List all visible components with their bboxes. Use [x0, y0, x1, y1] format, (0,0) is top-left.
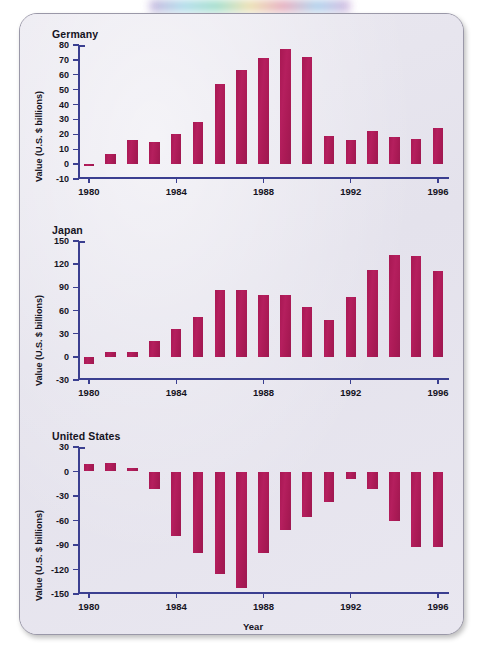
bar — [215, 472, 225, 575]
y-axis-tick-label: -120 — [29, 565, 69, 575]
y-axis-tick — [73, 149, 79, 150]
bar — [280, 472, 290, 531]
bar — [389, 137, 399, 164]
bar — [346, 140, 356, 164]
x-axis-tick — [437, 378, 438, 384]
x-axis-tick-label: 1988 — [253, 601, 274, 612]
x-axis-label: Year — [243, 621, 263, 632]
plot-area-united-states — [78, 447, 449, 594]
bar — [127, 468, 137, 471]
bar — [105, 352, 115, 357]
bar — [105, 154, 115, 164]
y-axis-tick — [73, 356, 79, 357]
x-axis-tick — [437, 592, 438, 598]
bar — [389, 255, 399, 357]
x-axis-tick-label: 1992 — [340, 387, 361, 398]
y-axis-tick-label: -10 — [29, 174, 69, 184]
bar — [324, 472, 334, 502]
bar — [433, 128, 443, 164]
y-axis-tick-label: -60 — [29, 516, 69, 526]
bar — [280, 295, 290, 357]
bar — [433, 472, 443, 547]
bar — [171, 134, 181, 164]
x-axis-tick — [437, 177, 438, 183]
y-axis-tick — [73, 287, 79, 288]
x-axis-tick — [176, 177, 177, 183]
bar — [302, 472, 312, 518]
bar — [193, 317, 203, 356]
y-axis-tick — [73, 104, 79, 105]
bar — [433, 271, 443, 357]
bar — [127, 352, 137, 357]
bar — [171, 472, 181, 537]
figure-page: Germany Value (U.S. $ billions) 19801984… — [0, 0, 492, 649]
panel-title-germany: Germany — [52, 28, 98, 40]
bar — [236, 290, 246, 356]
x-axis-tick-label: 1988 — [253, 186, 274, 197]
bar — [236, 70, 246, 164]
bar — [84, 357, 94, 364]
y-axis-tick — [73, 240, 79, 241]
x-axis-tick — [263, 177, 264, 183]
x-axis-tick — [263, 378, 264, 384]
bar — [149, 142, 159, 164]
chart-panel-japan: Japan Value (U.S. $ billions) 1980198419… — [20, 210, 463, 410]
x-axis-tick-label: 1996 — [428, 601, 449, 612]
y-axis-tick — [73, 119, 79, 120]
y-axis-tick — [73, 178, 79, 179]
plot-area-japan — [78, 241, 449, 380]
bar — [84, 164, 94, 166]
y-axis-tick-label: 120 — [29, 259, 69, 269]
x-axis-tick-label: 1980 — [78, 186, 99, 197]
y-axis-tick — [73, 569, 79, 570]
y-axis-tick-label: 0 — [29, 467, 69, 477]
y-axis-tick-label: 70 — [29, 55, 69, 65]
y-axis-tick — [73, 495, 79, 496]
bar — [302, 57, 312, 164]
bar — [171, 329, 181, 357]
plot-area-germany — [78, 45, 449, 179]
y-axis-tick-label: 0 — [29, 352, 69, 362]
y-axis-tick-label: 80 — [29, 40, 69, 50]
y-axis-line — [78, 45, 80, 179]
bar — [84, 464, 94, 471]
y-axis-tick-label: 10 — [29, 144, 69, 154]
y-axis-tick-label: 50 — [29, 85, 69, 95]
bar — [367, 131, 377, 164]
y-axis-tick — [73, 44, 79, 45]
x-axis-tick-label: 1992 — [340, 186, 361, 197]
x-axis-tick-label: 1980 — [78, 387, 99, 398]
bar — [193, 472, 203, 554]
bar — [215, 290, 225, 356]
chart-panel-united-states: United States Value (U.S. $ billions) 19… — [20, 416, 463, 634]
bar — [346, 472, 356, 479]
bar — [149, 341, 159, 356]
y-axis-tick — [73, 379, 79, 380]
y-axis-tick — [73, 544, 79, 545]
y-axis-tick-label: 90 — [29, 282, 69, 292]
x-axis-tick — [176, 592, 177, 598]
x-axis-tick-label: 1984 — [166, 186, 187, 197]
bar — [411, 472, 421, 547]
bar — [367, 270, 377, 357]
x-axis-tick-label: 1992 — [340, 601, 361, 612]
x-axis-tick — [88, 177, 89, 183]
y-axis-tick-label: -150 — [29, 589, 69, 599]
y-axis-tick-label: 60 — [29, 70, 69, 80]
bar — [127, 140, 137, 164]
x-axis-tick-label: 1980 — [78, 601, 99, 612]
x-axis-tick-label: 1984 — [166, 387, 187, 398]
bar — [346, 297, 356, 357]
bar — [280, 49, 290, 164]
y-axis-tick-label: -30 — [29, 375, 69, 385]
x-axis-tick-label: 1996 — [428, 186, 449, 197]
y-axis-tick-label: -30 — [29, 491, 69, 501]
y-axis-tick-label: 60 — [29, 306, 69, 316]
bar — [258, 295, 268, 357]
x-axis-tick — [88, 592, 89, 598]
y-axis-tick-label: 30 — [29, 329, 69, 339]
x-axis-tick — [176, 378, 177, 384]
y-axis-tick — [73, 333, 79, 334]
x-axis-tick — [350, 378, 351, 384]
x-axis-tick — [263, 592, 264, 598]
